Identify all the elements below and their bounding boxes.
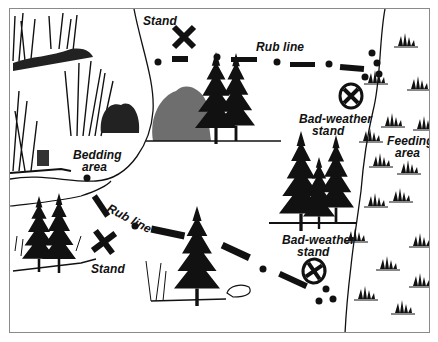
stand-bottom-icon xyxy=(93,231,116,254)
pine-tree xyxy=(174,206,220,306)
stump xyxy=(37,150,49,166)
map-illustration xyxy=(10,9,430,333)
bad-weather-stand-bottom-icon xyxy=(301,257,327,284)
label-bad-weather-stand-top-2: stand xyxy=(312,125,345,137)
rub-line-top xyxy=(155,50,383,81)
feeding-area-boundary xyxy=(345,9,385,333)
bad-weather-stand-top-icon xyxy=(340,84,362,108)
top-bush xyxy=(152,86,211,141)
label-bad-weather-stand-bottom-2: stand xyxy=(297,246,330,258)
label-bedding-area-2: area xyxy=(82,161,107,173)
pine-tree xyxy=(22,196,56,272)
label-feeding-area-2: area xyxy=(395,147,420,159)
label-rub-line-top: Rub line xyxy=(256,41,304,53)
label-stand-bottom: Stand xyxy=(91,263,125,275)
label-stand-top: Stand xyxy=(143,15,177,27)
stand-top-icon xyxy=(174,27,194,47)
rock xyxy=(227,285,250,297)
map-frame: Stand Rub line Bad-weather stand Bedding… xyxy=(9,8,430,333)
